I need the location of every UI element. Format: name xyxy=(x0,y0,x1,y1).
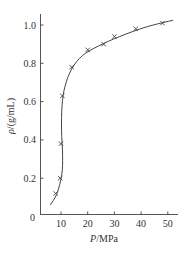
x-tick-label: 20 xyxy=(83,218,93,229)
x-tick-label: 50 xyxy=(163,218,173,229)
y-tick-label: 0.6 xyxy=(24,96,37,107)
x-marker-icon xyxy=(112,34,116,38)
x-marker-icon xyxy=(58,176,62,180)
x-tick-label: 40 xyxy=(136,218,146,229)
y-tick-label: 0.4 xyxy=(24,134,37,145)
y-axis-label: ρ/(g/mL) xyxy=(5,98,17,135)
y-tick-label: 1.0 xyxy=(24,20,37,31)
density-pressure-chart: 00.20.40.60.81.0 1020304050 ρ/(g/mL) P/M… xyxy=(0,0,187,254)
y-tick-label: 0 xyxy=(30,212,35,223)
data-markers xyxy=(53,21,164,196)
y-tick-label: 0.8 xyxy=(24,58,37,69)
x-axis-label: P/MPa xyxy=(89,233,118,244)
x-tick-label: 30 xyxy=(109,218,119,229)
y-tick-label: 0.2 xyxy=(24,173,37,184)
fitted-curve xyxy=(50,20,173,205)
axes xyxy=(40,14,178,215)
x-tick-label: 10 xyxy=(56,218,66,229)
x-marker-icon xyxy=(60,94,64,98)
